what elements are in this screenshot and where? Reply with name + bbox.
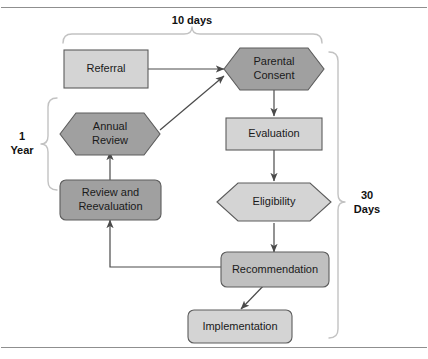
node-referral[interactable]: Referral bbox=[64, 50, 148, 88]
node-eligibility-label: Eligibility bbox=[253, 195, 296, 207]
brace-one-year: 1 Year bbox=[10, 98, 57, 190]
node-parental-consent[interactable]: Parental Consent bbox=[224, 48, 324, 90]
brace-ten-days-label: 10 days bbox=[172, 14, 212, 26]
node-referral-label: Referral bbox=[86, 62, 125, 74]
edge-annual-review-to-parental-consent bbox=[160, 76, 224, 130]
brace-one-year-label-line2: Year bbox=[10, 144, 34, 156]
node-evaluation[interactable]: Evaluation bbox=[226, 118, 322, 150]
node-recommendation[interactable]: Recommendation bbox=[221, 252, 329, 287]
node-implementation[interactable]: Implementation bbox=[188, 310, 292, 343]
node-annual-review-label-line2: Review bbox=[92, 134, 128, 146]
node-parental-consent-label-line1: Parental bbox=[254, 55, 295, 67]
flowchart-canvas: 10 days 1 Year 30 Days bbox=[0, 0, 428, 359]
node-annual-review-label-line1: Annual bbox=[93, 120, 127, 132]
node-review-label-line1: Review and bbox=[82, 186, 139, 198]
brace-thirty-days-label-line2: Days bbox=[354, 203, 380, 215]
edge-recommendation-to-review bbox=[110, 220, 221, 267]
brace-one-year-label-line1: 1 bbox=[19, 130, 25, 142]
node-evaluation-label: Evaluation bbox=[248, 127, 299, 139]
node-parental-consent-label-line2: Consent bbox=[254, 69, 295, 81]
diagram-page: 10 days 1 Year 30 Days bbox=[0, 0, 428, 359]
brace-thirty-days-label-line1: 30 bbox=[361, 189, 373, 201]
node-recommendation-label: Recommendation bbox=[232, 263, 318, 275]
brace-thirty-days: 30 Days bbox=[329, 52, 380, 338]
node-implementation-label: Implementation bbox=[202, 320, 277, 332]
node-eligibility[interactable]: Eligibility bbox=[217, 183, 331, 221]
node-review-and-reevaluation[interactable]: Review and Reevaluation bbox=[60, 180, 161, 220]
node-annual-review[interactable]: Annual Review bbox=[60, 113, 160, 155]
node-review-label-line2: Reevaluation bbox=[78, 200, 142, 212]
brace-ten-days: 10 days bbox=[63, 14, 322, 43]
